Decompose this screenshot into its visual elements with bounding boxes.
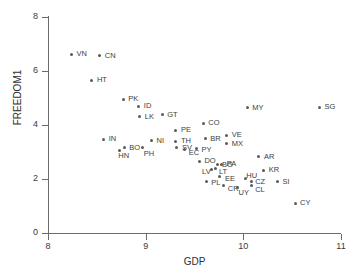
data-point-BG [216,163,219,166]
data-point-label-LV: LV [202,168,211,176]
data-point-label-PA: PA [227,160,236,168]
data-point-label-CO: CO [208,119,219,127]
data-point-SG [318,106,321,109]
data-point-BR [204,137,207,140]
data-point-label-CY: CY [300,199,310,207]
x-tick-11 [341,234,342,240]
y-tick-4 [42,125,48,126]
x-tick-label-10: 10 [230,242,256,251]
data-point-CN [98,54,101,57]
x-tick-10 [243,234,244,240]
y-tick-8 [42,17,48,18]
data-point-label-CN: CN [105,52,116,60]
y-tick-2 [42,179,48,180]
data-point-label-PK: PK [128,95,138,103]
data-point-BO [123,146,126,149]
data-point-label-LK: LK [145,113,154,121]
data-point-label-PY: PY [201,146,211,154]
data-point-label-SG: SG [325,103,336,111]
data-point-CY [294,202,297,205]
x-tick-label-11: 11 [328,242,354,251]
x-axis-title: GDP [48,256,341,267]
data-point-label-BR: BR [210,135,220,143]
data-point-CO [202,122,205,125]
data-point-label-BO: BO [129,144,140,152]
data-point-GT [161,113,164,116]
data-point-label-KR: KR [269,166,279,174]
y-tick-label-0: 0 [14,228,38,237]
data-point-ID [137,105,140,108]
x-tick-8 [48,234,49,240]
y-tick-label-8: 8 [14,12,38,21]
data-point-PE [174,129,177,132]
scatter-plot-figure: 02468 891011 VNCNHTPKIDLKGTCOMYSGPEVEINN… [0,0,357,277]
data-point-label-DO: DO [204,157,215,165]
data-point-MX [225,142,228,145]
data-point-KR [262,169,265,172]
data-point-VE [225,134,228,137]
data-point-label-MY: MY [252,104,263,112]
data-point-VN [70,53,73,56]
data-point-CR [222,184,225,187]
data-point-label-IN: IN [109,135,117,143]
y-tick-label-2: 2 [14,174,38,183]
data-point-LK [138,115,141,118]
x-tick-label-9: 9 [133,242,159,251]
x-axis-line [48,233,341,234]
data-point-label-SI: SI [283,178,290,186]
data-point-TH [174,140,177,143]
data-point-SV [175,146,178,149]
data-point-label-NI: NI [157,137,165,145]
data-point-HT [90,79,93,82]
data-point-label-HN: HN [118,152,129,160]
data-point-PK [122,98,125,101]
y-axis-line [48,16,49,234]
data-point-label-VN: VN [76,50,86,58]
data-point-label-EC: EC [189,149,199,157]
data-point-AR [257,155,260,158]
data-point-label-PL: PL [211,179,220,187]
data-point-label-PE: PE [181,126,191,134]
data-point-label-GT: GT [167,111,177,119]
data-point-label-EE: EE [225,175,235,183]
data-point-MY [246,106,249,109]
data-point-NI [150,139,153,142]
x-tick-9 [146,234,147,240]
data-point-label-UY: UY [238,189,248,197]
data-point-DO [198,160,201,163]
data-point-CZ [250,180,253,183]
data-point-SI [276,180,279,183]
data-point-CL [250,184,253,187]
data-point-label-CL: CL [255,186,265,194]
x-tick-label-8: 8 [35,242,61,251]
data-point-label-HT: HT [97,76,107,84]
data-point-label-PH: PH [144,150,154,158]
data-point-IN [102,138,105,141]
data-point-LT [214,167,217,170]
y-axis-title: FREEDOM1 [12,53,23,143]
y-tick-6 [42,71,48,72]
data-point-PL [205,180,208,183]
data-point-label-AR: AR [264,153,274,161]
data-point-label-MX: MX [232,140,243,148]
data-point-label-ID: ID [144,102,152,110]
